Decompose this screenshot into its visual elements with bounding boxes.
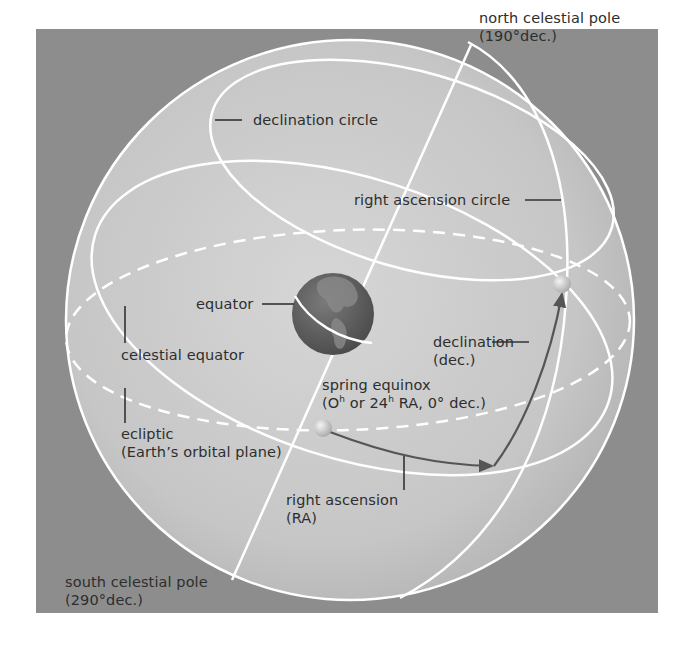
ecliptic-label-line1: ecliptic xyxy=(121,425,282,443)
ecliptic-label-line2: (Earth’s orbital plane) xyxy=(121,443,282,461)
earth xyxy=(292,273,374,355)
ecliptic-label: ecliptic (Earth’s orbital plane) xyxy=(121,425,282,461)
equator-label: equator xyxy=(196,295,253,313)
star-position-marker xyxy=(553,275,571,293)
declination-label-line1: declination xyxy=(433,333,514,351)
spring-equinox-label: spring equinox (Oh or 24h RA, 0° dec.) xyxy=(322,376,486,412)
right-ascension-label-line1: right ascension xyxy=(286,491,398,509)
celestial-sphere-diagram xyxy=(0,0,683,648)
right-ascension-label: right ascension (RA) xyxy=(286,491,398,527)
south-celestial-pole-label: south celestial pole (290°dec.) xyxy=(65,573,208,609)
declination-circle-label: declination circle xyxy=(253,111,378,129)
spring-equinox-label-line2: (Oh or 24h RA, 0° dec.) xyxy=(322,394,486,412)
right-ascension-label-line2: (RA) xyxy=(286,509,398,527)
declination-label-line2: (dec.) xyxy=(433,351,514,369)
south-pole-label-line1: south celestial pole xyxy=(65,573,208,591)
spring-equinox-marker xyxy=(314,419,332,437)
spring-equinox-label-line1: spring equinox xyxy=(322,376,486,394)
celestial-equator-label: celestial equator xyxy=(121,346,244,364)
declination-label: declination (dec.) xyxy=(433,333,514,369)
north-pole-label-line2: (190°dec.) xyxy=(479,27,620,45)
right-ascension-circle-label: right ascension circle xyxy=(354,191,510,209)
south-pole-label-line2: (290°dec.) xyxy=(65,591,208,609)
north-celestial-pole-label: north celestial pole (190°dec.) xyxy=(479,9,620,45)
north-pole-label-line1: north celestial pole xyxy=(479,9,620,27)
